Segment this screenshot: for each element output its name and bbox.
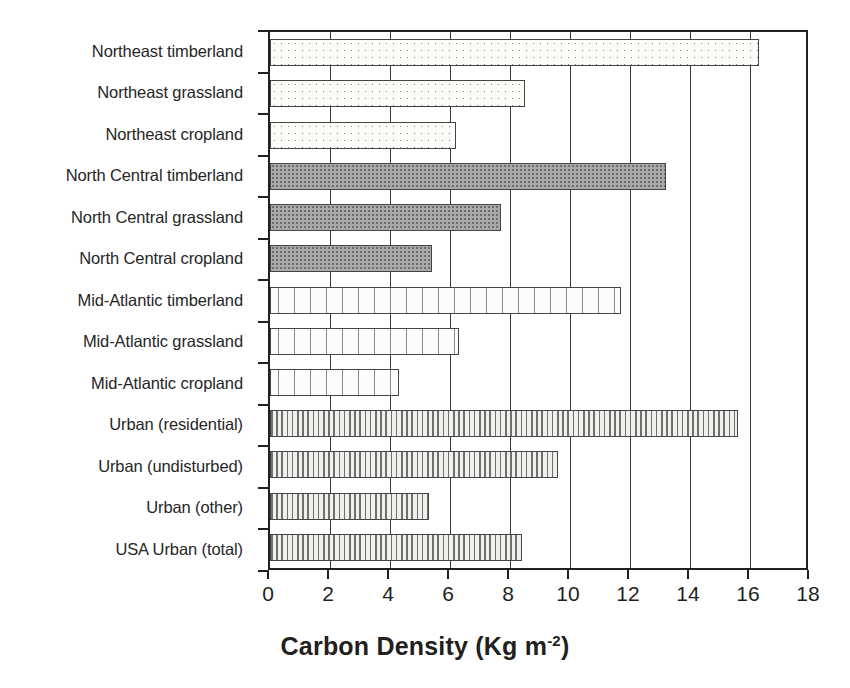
category-label: North Central timberland (0, 155, 252, 197)
bar (270, 39, 759, 66)
category-label: Northeast cropland (0, 113, 252, 155)
bar-row (270, 527, 806, 568)
y-axis-tick (258, 113, 268, 115)
y-axis-tick (258, 279, 268, 281)
y-axis-tick (258, 362, 268, 364)
bar (270, 287, 621, 314)
y-axis-tick (258, 404, 268, 406)
x-axis-tick (747, 570, 749, 579)
category-axis-labels: Northeast timberlandNortheast grasslandN… (0, 30, 252, 570)
x-axis-tick-label: 10 (556, 583, 579, 604)
y-axis-tick (258, 72, 268, 74)
x-axis-tick-label: 16 (736, 583, 759, 604)
bar (270, 369, 399, 396)
x-axis-tick-label: 18 (796, 583, 819, 604)
x-axis-title-superscript: -2 (547, 632, 561, 649)
bar-row (270, 279, 806, 320)
bar-row (270, 362, 806, 403)
x-axis-tick (447, 570, 449, 579)
bar-row (270, 197, 806, 238)
bar-row (270, 486, 806, 527)
x-axis: 024681012141618 (268, 570, 808, 571)
category-label: North Central grassland (0, 196, 252, 238)
bar-row (270, 32, 806, 73)
bar (270, 204, 501, 231)
x-axis-tick (267, 570, 269, 579)
x-axis-tick-label: 4 (382, 583, 394, 604)
x-axis-tick-label: 12 (616, 583, 639, 604)
bar (270, 493, 429, 520)
x-axis-tick-label: 8 (502, 583, 514, 604)
x-axis-tick (567, 570, 569, 579)
x-axis-tick (807, 570, 809, 579)
bar (270, 80, 525, 107)
x-axis-title: Carbon Density (Kg m-2) (0, 632, 850, 661)
bar-row (270, 321, 806, 362)
category-label: USA Urban (total) (0, 528, 252, 570)
category-label: Mid-Atlantic timberland (0, 279, 252, 321)
category-label: Urban (other) (0, 487, 252, 529)
bar (270, 163, 666, 190)
carbon-density-bar-chart: Northeast timberlandNortheast grasslandN… (0, 0, 850, 688)
bar (270, 328, 459, 355)
category-label: Northeast grassland (0, 72, 252, 114)
bar-row (270, 444, 806, 485)
y-axis-tick (258, 321, 268, 323)
x-axis-tick-label: 0 (262, 583, 274, 604)
bar (270, 410, 738, 437)
category-label: Northeast timberland (0, 30, 252, 72)
y-axis-tick (258, 155, 268, 157)
bar (270, 122, 456, 149)
y-axis-tick (258, 487, 268, 489)
y-axis-tick (258, 196, 268, 198)
y-axis-tick (258, 238, 268, 240)
bar (270, 245, 432, 272)
category-label: Mid-Atlantic grassland (0, 321, 252, 363)
plot-area (268, 30, 808, 570)
x-axis-tick (627, 570, 629, 579)
x-axis-tick (327, 570, 329, 579)
bar-row (270, 114, 806, 155)
bar-row (270, 156, 806, 197)
bar-row (270, 238, 806, 279)
category-label: North Central cropland (0, 238, 252, 280)
x-axis-tick (687, 570, 689, 579)
x-axis-tick-label: 6 (442, 583, 454, 604)
y-axis-tick (258, 445, 268, 447)
bar-series (270, 32, 806, 568)
x-axis-tick-label: 2 (322, 583, 334, 604)
y-axis-tick (258, 528, 268, 530)
x-axis-tick-label: 14 (676, 583, 699, 604)
x-axis-tick (507, 570, 509, 579)
category-label: Urban (undisturbed) (0, 445, 252, 487)
y-axis-tick (258, 30, 268, 32)
bar-row (270, 73, 806, 114)
bar (270, 534, 522, 561)
category-label: Mid-Atlantic cropland (0, 362, 252, 404)
bar-row (270, 403, 806, 444)
bar (270, 451, 558, 478)
x-axis-tick (387, 570, 389, 579)
category-label: Urban (residential) (0, 404, 252, 446)
